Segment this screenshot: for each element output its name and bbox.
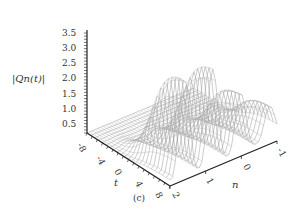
z-tick-label: 3.5 [62, 28, 77, 38]
t-tick-label: -8 [75, 141, 88, 154]
n-tick-label: 2 [170, 190, 182, 200]
n-axis-label: n [232, 179, 238, 190]
n-tick-label: 0 [241, 162, 253, 172]
figure-caption: (c) [133, 193, 145, 203]
t-tick-label: 4 [133, 179, 145, 189]
z-tick-label: 0.5 [62, 119, 77, 129]
z-tick-label: 2.5 [62, 58, 77, 68]
z-tick-label: 2.0 [62, 73, 77, 83]
z-tick-label: 1.5 [62, 89, 77, 99]
n-tick-label: -1 [275, 146, 288, 158]
z-tick-label: 3.0 [62, 43, 77, 53]
n-tick-label: 1 [204, 176, 216, 186]
z-axis-label: |Qn(t)| [12, 73, 45, 85]
t-tick-label: 0 [112, 167, 124, 177]
t-tick-label: 8 [153, 190, 165, 200]
t-tick-label: -4 [94, 154, 107, 167]
surface-plot: 0.51.01.52.02.53.03.5-8-4048210-1 |Qn(t)… [0, 0, 304, 219]
t-axis-label: t [114, 177, 119, 188]
z-tick-label: 1.0 [62, 104, 77, 114]
